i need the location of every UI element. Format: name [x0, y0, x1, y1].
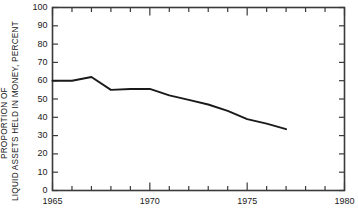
plot-area	[0, 0, 358, 215]
chart-figure: PROPORTION OF LIQUID ASSETS HELD IN MONE…	[0, 0, 358, 215]
data-series-line	[53, 77, 287, 129]
axes-frame	[53, 8, 345, 191]
axis-ticks	[53, 8, 345, 191]
